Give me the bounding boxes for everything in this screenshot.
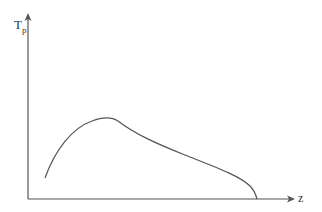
diagram: Tp z: [0, 0, 322, 212]
tp-curve: [45, 118, 257, 199]
y-axis-label-subscript: p: [22, 25, 27, 35]
x-axis-label: z: [298, 192, 303, 204]
y-axis-label: Tp: [14, 18, 26, 31]
diagram-canvas: [0, 0, 322, 212]
y-axis-label-main: T: [14, 17, 22, 32]
